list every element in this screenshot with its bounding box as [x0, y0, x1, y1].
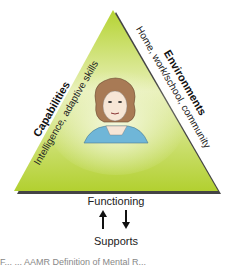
- functioning-label: Functioning: [88, 195, 145, 207]
- functioning-triangle-diagram: Capabilities Intelligence, adaptive skil…: [0, 0, 231, 265]
- up-arrow-icon: [99, 210, 107, 229]
- down-arrow-icon: [122, 210, 130, 229]
- figure-caption: F... ... AAMR Definition of Mental R...: [0, 257, 231, 265]
- supports-label: Supports: [94, 235, 139, 247]
